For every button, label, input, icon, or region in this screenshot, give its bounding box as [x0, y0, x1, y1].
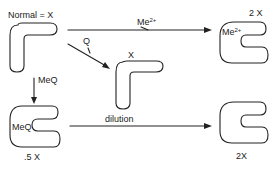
me-arrow-label-base: Me [137, 17, 150, 27]
normal-label: Normal = X [8, 10, 53, 20]
q-bound-label: X [128, 50, 134, 60]
dilution-arrowhead-icon [204, 123, 212, 129]
q-arrow-label: Q [83, 36, 90, 46]
diagram-canvas: Normal = X Me2+ Q X 2 X Me2+ MeQ MeQ .5 … [0, 0, 273, 169]
meq-arrowhead-icon [31, 97, 37, 104]
me-bound-inner-base: Me [222, 27, 235, 37]
q-arrowhead-icon [102, 62, 110, 69]
normal-l-shape [10, 23, 57, 72]
q-arrow-line [68, 44, 106, 66]
meq-arrow-label: MeQ [38, 75, 58, 85]
diluted-label: 2X [236, 151, 247, 161]
me-bound-inner-label: Me2+ [222, 27, 241, 37]
me-bound-inner-sup: 2+ [235, 27, 242, 33]
meq-bound-label: .5 X [24, 152, 40, 162]
me-arrow-label: Me2+ [137, 17, 156, 27]
me-bound-label: 2 X [249, 8, 263, 18]
q-bound-l-shape [116, 61, 163, 109]
meq-bound-inner-label: MeQ [12, 122, 32, 132]
me-arrowhead-icon [204, 27, 212, 33]
me-arrow-label-sup: 2+ [150, 17, 157, 23]
dilution-arrow-label: dilution [105, 114, 134, 124]
diluted-c-shape [220, 102, 268, 143]
